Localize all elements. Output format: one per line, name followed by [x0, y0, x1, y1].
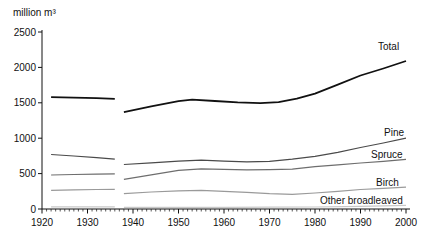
y-tick-label: 2500 — [14, 27, 37, 38]
series-line-pine — [51, 155, 115, 160]
x-tick-label: 1980 — [304, 217, 327, 228]
y-tick-label: 500 — [19, 168, 36, 179]
y-tick-label: 1500 — [14, 97, 37, 108]
x-tick-label: 1930 — [76, 217, 99, 228]
x-tick-label: 1940 — [122, 217, 145, 228]
x-tick-label: 1950 — [167, 217, 190, 228]
x-tick-label: 1970 — [258, 217, 281, 228]
series-line-pine — [124, 138, 406, 164]
series-line-total — [51, 97, 115, 99]
y-tick-label: 1000 — [14, 133, 37, 144]
chart-canvas: 0500100015002000250019201930194019501960… — [0, 0, 424, 241]
y-axis-unit-label: million m³ — [13, 7, 56, 18]
series-label-birch: Birch — [376, 177, 399, 188]
series-label-total: Total — [378, 41, 399, 52]
series-line-birch — [51, 189, 115, 190]
series-line-spruce — [51, 174, 115, 175]
series-line-birch — [124, 187, 406, 194]
series-label-spruce: Spruce — [371, 149, 403, 160]
x-tick-label: 1990 — [349, 217, 372, 228]
series-label-pine: Pine — [384, 127, 404, 138]
x-tick-label: 1960 — [213, 217, 236, 228]
series-line-total — [124, 61, 406, 112]
series-label-other-broadleaved: Other broadleaved — [320, 195, 403, 206]
y-tick-label: 2000 — [14, 62, 37, 73]
growing-stock-chart: 0500100015002000250019201930194019501960… — [0, 0, 424, 241]
x-tick-label: 1920 — [31, 217, 54, 228]
x-tick-label: 2000 — [395, 217, 418, 228]
y-tick-label: 0 — [30, 204, 36, 215]
